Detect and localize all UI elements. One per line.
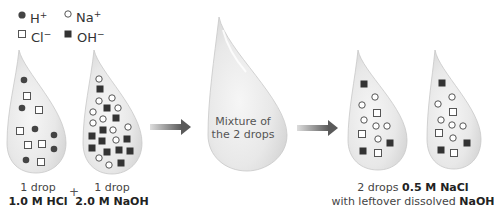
mixture-label-line1: Mixture of bbox=[212, 115, 275, 128]
result-caption-naoh: NaOH bbox=[459, 195, 494, 208]
arrow-right-icon bbox=[297, 120, 338, 136]
naoh-caption: 1 drop 2.0 M NaOH bbox=[75, 181, 148, 209]
result-caption: 2 drops 0.5 M NaCl with leftover dissolv… bbox=[332, 181, 494, 209]
result-caption-line1: 2 drops bbox=[357, 181, 402, 194]
legend-label-oh-minus: OH− bbox=[77, 27, 105, 45]
naoh-caption-concentration: 2.0 M NaOH bbox=[75, 195, 148, 208]
mixture-label: Mixture of the 2 drops bbox=[212, 115, 275, 141]
hcl-drop bbox=[7, 50, 66, 173]
naoh-caption-quantity: 1 drop bbox=[75, 181, 148, 195]
legend-label-cl-minus: Cl− bbox=[31, 27, 51, 45]
oh-minus-legend-icon bbox=[65, 31, 72, 38]
legend-label-na-plus: Na+ bbox=[76, 7, 101, 25]
hcl-caption: 1 drop 1.0 M HCl bbox=[8, 181, 67, 209]
h-plus-legend-icon bbox=[18, 11, 25, 18]
arrow-right-icon bbox=[150, 119, 191, 135]
mixture-drop bbox=[208, 17, 287, 171]
cl-minus-legend-icon bbox=[19, 31, 26, 38]
result-caption-nacl: 0.5 M NaCl bbox=[402, 181, 469, 194]
naoh-drop bbox=[83, 50, 142, 174]
mixture-label-line2: the 2 drops bbox=[212, 128, 275, 141]
na-plus-legend-icon bbox=[65, 11, 71, 17]
hcl-caption-quantity: 1 drop bbox=[8, 181, 67, 195]
nacl-drop-1 bbox=[348, 50, 407, 170]
nacl-drop-2 bbox=[427, 50, 481, 169]
result-caption-line2: with leftover dissolved bbox=[332, 195, 460, 208]
legend-label-h-plus: H+ bbox=[30, 8, 47, 26]
hcl-caption-concentration: 1.0 M HCl bbox=[8, 195, 67, 208]
